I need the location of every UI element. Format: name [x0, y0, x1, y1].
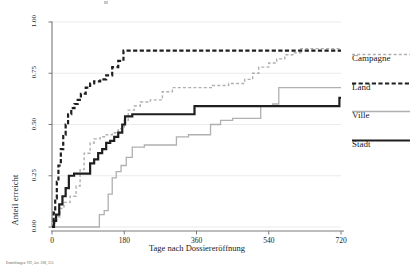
x-tick-label: 540 — [254, 236, 284, 245]
y-tick-label: 0.25 — [30, 163, 38, 187]
legend-swatch-stadt — [352, 130, 412, 137]
legend-entry-land: Land — [352, 73, 417, 93]
figure-container: Anteil erreicht Tage nach Dossiereröffnu… — [0, 0, 417, 275]
y-tick-label: 0.50 — [30, 112, 38, 136]
series-line-campagne — [52, 49, 341, 227]
x-tick-label: 360 — [182, 236, 212, 245]
legend-entry-stadt: Stadt — [352, 130, 417, 150]
legend-entry-ville: Ville — [352, 101, 417, 121]
legend-swatch-land — [352, 73, 412, 80]
chart-legend: CampagneLandVilleStadt — [352, 44, 417, 158]
series-line-stadt — [52, 98, 341, 227]
legend-swatch-campagne — [352, 44, 412, 51]
legend-line-icon — [352, 51, 412, 58]
x-tick-label: 720 — [326, 236, 356, 245]
x-tick-label: 0 — [37, 236, 67, 245]
legend-line-icon — [352, 137, 412, 144]
y-axis-title: Anteil erreicht — [10, 145, 20, 255]
legend-swatch-ville — [352, 101, 412, 108]
legend-line-icon — [352, 108, 412, 115]
series-line-ville — [52, 88, 341, 227]
legend-entry-campagne: Campagne — [352, 44, 417, 64]
y-tick-label: 0.00 — [30, 214, 38, 238]
y-tick-label: 0.75 — [30, 60, 38, 84]
figure-footnote: Ermittlungen VII, Art. 308, 315 — [6, 261, 54, 265]
x-tick-label: 180 — [109, 236, 139, 245]
y-tick-label: 1.00 — [30, 9, 38, 33]
legend-line-icon — [352, 80, 412, 87]
